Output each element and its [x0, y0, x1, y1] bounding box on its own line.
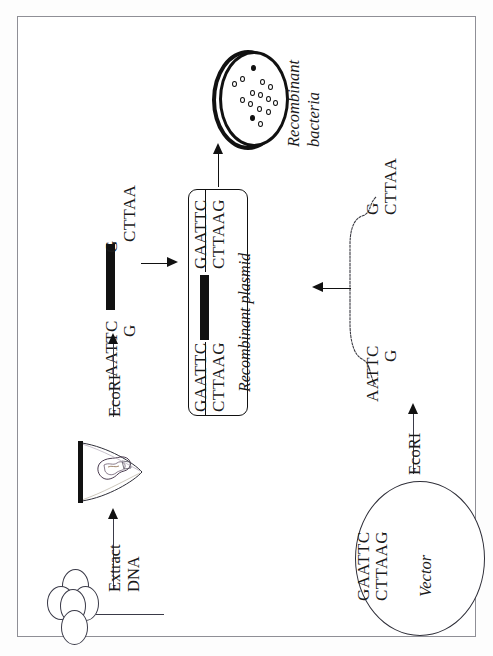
- label-ecori-genomic: EcoRI: [107, 375, 124, 417]
- bacterial-colony: [258, 92, 263, 98]
- bacterial-colony: [240, 97, 245, 103]
- plasmid-sequence-right-bottom: CTTAAG: [210, 199, 227, 269]
- cell-pointer-line: [96, 614, 164, 615]
- linear-vector-sequence-left-bottom: G: [382, 349, 399, 362]
- figure-border: Recombinant bacteria Recombinant plasmid…: [17, 16, 476, 637]
- bacterial-colony: [250, 115, 255, 121]
- label-extract-line1: Extract: [107, 544, 124, 592]
- vector-sequence-top: GAATTC: [355, 532, 372, 601]
- label-recombinant-bacteria-line1: Recombinant: [286, 60, 303, 147]
- bacterial-cell: [61, 610, 88, 645]
- dna-insert-bar: [200, 275, 209, 340]
- bacterial-colony: [257, 106, 262, 112]
- bacterial-colony: [258, 121, 263, 127]
- bacterial-colony: [240, 76, 245, 82]
- fragment-sequence-top-left: AATTC: [103, 320, 120, 377]
- fragment-sequence-bottom-right: CTTAA: [121, 185, 138, 242]
- label-extract-line2: DNA: [126, 556, 143, 592]
- plasmid-sequence-left-bottom: CTTAAG: [210, 342, 227, 412]
- linear-vector-sequence-left-top: AATTC: [364, 345, 381, 402]
- bacterial-colony: [248, 101, 253, 107]
- label-recombinant-plasmid: Recombinant plasmid: [237, 253, 253, 392]
- plasmid-sequence-left-top: GAATTC: [192, 343, 209, 412]
- plasmid-sequence-right-top: GAATTC: [192, 200, 209, 269]
- label-ecori-vector: EcoRI: [407, 433, 424, 475]
- bacterial-colony: [251, 65, 256, 71]
- bacterial-colony: [260, 79, 265, 85]
- petri-dish: [211, 48, 287, 147]
- label-vector: Vector: [418, 555, 435, 597]
- bacterial-colony: [268, 84, 273, 90]
- fragment-sequence-top-right: G: [103, 240, 120, 253]
- vector-sequence-bottom: CTTAAG: [373, 531, 390, 601]
- extracted-dna-illustration: [78, 441, 144, 503]
- bacterial-colony: [250, 90, 255, 96]
- petri-dish-base: [219, 51, 289, 147]
- dna-fragment-bar: [106, 244, 115, 310]
- bacterial-colony: [273, 100, 278, 106]
- fragment-sequence-bottom-left: G: [121, 324, 138, 337]
- linear-vector-sequence-right-top: G: [364, 202, 381, 215]
- linear-vector-sequence-right-bottom: CTTAA: [382, 158, 399, 215]
- bacterial-colony: [232, 81, 237, 87]
- dna-gel-bar: [78, 441, 83, 503]
- label-recombinant-bacteria-line2: bacteria: [306, 92, 323, 147]
- figure-canvas: Recombinant bacteria Recombinant plasmid…: [0, 0, 493, 656]
- bacterial-colony: [266, 96, 271, 102]
- bacterial-colony: [266, 109, 271, 115]
